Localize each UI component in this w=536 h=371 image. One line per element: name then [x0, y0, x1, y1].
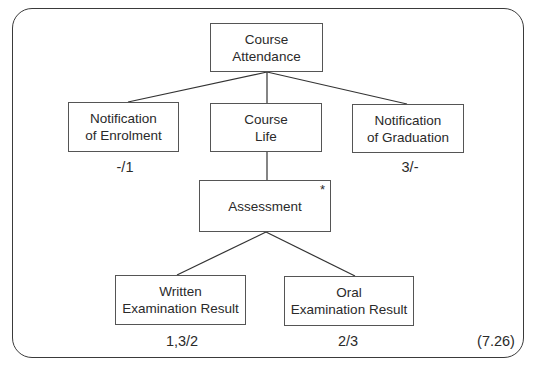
node-notification-of-enrolment: Notification of Enrolment: [68, 102, 179, 152]
node-written-examination-result: Written Examination Result: [115, 275, 246, 325]
node-course-attendance: Course Attendance: [210, 23, 323, 72]
edge-attendance-graduation: [267, 72, 407, 104]
node-label: Course Life: [244, 111, 288, 145]
node-label: Course Attendance: [232, 31, 300, 65]
cardinality-enrolment: -/1: [117, 159, 134, 175]
node-oral-examination-result: Oral Examination Result: [284, 276, 414, 326]
node-label: Assessment: [228, 198, 302, 215]
edge-assessment-written: [177, 232, 266, 275]
iteration-marker-asterisk: *: [320, 183, 325, 196]
node-label: Notification of Enrolment: [85, 110, 162, 144]
node-assessment: Assessment *: [199, 180, 331, 232]
node-course-life: Course Life: [210, 103, 322, 152]
figure-number: (7.26): [477, 333, 515, 349]
cardinality-oral: 2/3: [338, 333, 358, 349]
node-label: Notification of Graduation: [367, 112, 449, 146]
cardinality-written: 1,3/2: [166, 333, 198, 349]
node-notification-of-graduation: Notification of Graduation: [352, 104, 464, 153]
edge-assessment-oral: [266, 232, 355, 276]
node-label: Oral Examination Result: [291, 284, 407, 318]
node-label: Written Examination Result: [122, 283, 238, 317]
cardinality-graduation: 3/-: [402, 159, 419, 175]
edge-attendance-enrolment: [128, 72, 267, 102]
